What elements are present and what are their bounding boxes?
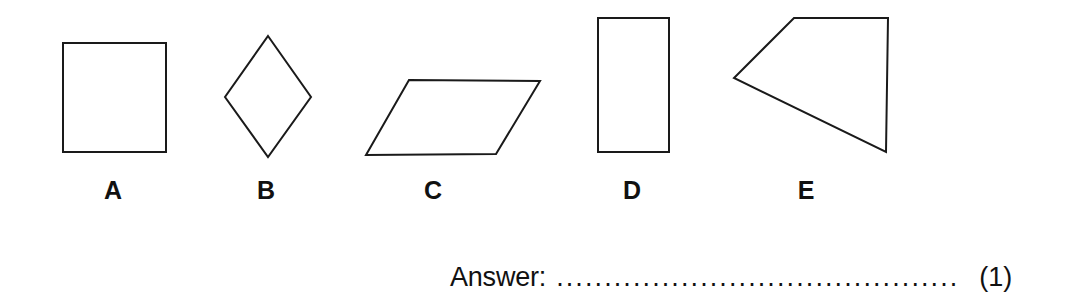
shape-b-rhombus: [225, 36, 311, 157]
shape-d-rectangle: [598, 18, 669, 152]
answer-label: Answer:: [450, 262, 546, 292]
shape-label-d: D: [602, 178, 662, 203]
shape-e-quadrilateral: [734, 18, 888, 152]
shapes-diagram: [0, 0, 1085, 170]
marks-allocation: (1): [979, 262, 1012, 292]
shapes-row: [0, 0, 1085, 170]
answer-row: Answer: ................................…: [450, 262, 1070, 296]
shape-label-a: A: [83, 178, 143, 203]
shape-label-b: B: [236, 178, 296, 203]
shape-a-square: [63, 43, 166, 152]
shape-label-c: C: [403, 178, 463, 203]
answer-input-line[interactable]: ........................................…: [556, 262, 961, 292]
worksheet-page: A B C D E Answer: ......................…: [0, 0, 1085, 300]
shape-c-parallelogram: [366, 80, 540, 155]
shape-label-e: E: [776, 178, 836, 203]
